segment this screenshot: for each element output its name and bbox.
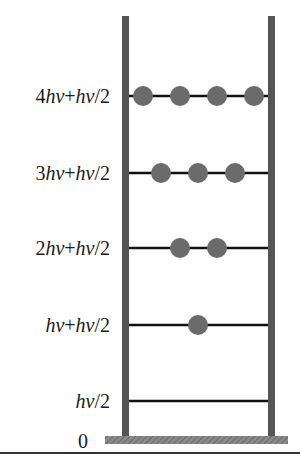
level-label: 4hν+hν/2: [35, 85, 110, 107]
energy-level: 2hν+hν/2: [35, 237, 268, 259]
particle: [170, 86, 190, 106]
energy-level: 3hν+hν/2: [35, 162, 268, 184]
particle: [188, 163, 208, 183]
ground-base: [105, 436, 288, 444]
particle: [225, 163, 245, 183]
particle: [133, 86, 153, 106]
zero-label: 0: [78, 430, 88, 452]
particle: [151, 163, 171, 183]
bottom-rule: [0, 452, 300, 454]
particle: [244, 86, 264, 106]
energy-levels: 4hν+hν/23hν+hν/22hν+hν/2hν+hν/2hν/2: [35, 85, 268, 412]
particle: [170, 238, 190, 258]
right-rail: [268, 16, 275, 438]
particle: [188, 315, 208, 335]
level-label: 2hν+hν/2: [35, 237, 110, 259]
left-rail: [122, 16, 129, 438]
energy-level: hν+hν/2: [45, 314, 268, 336]
energy-level-diagram: 4hν+hν/23hν+hν/22hν+hν/2hν+hν/2hν/2 0: [0, 0, 300, 462]
level-label: 3hν+hν/2: [35, 162, 110, 184]
energy-level: 4hν+hν/2: [35, 85, 268, 107]
particle: [207, 86, 227, 106]
level-label: hν+hν/2: [45, 314, 110, 336]
energy-level: hν/2: [76, 390, 268, 412]
level-label: hν/2: [76, 390, 110, 412]
particle: [207, 238, 227, 258]
